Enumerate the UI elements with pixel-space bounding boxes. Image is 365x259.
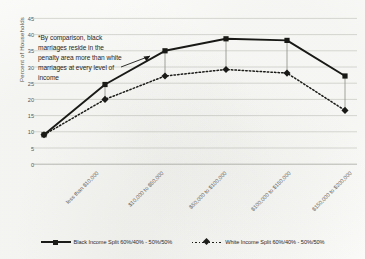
legend-key-solid-square-icon bbox=[41, 238, 71, 246]
chart-page: Percent of Households 45 40 35 30 25 20 … bbox=[0, 0, 365, 259]
chart-legend: Black Income Split 60%/40% - 50%/50% Whi… bbox=[0, 238, 365, 246]
chart-annotation: *By comparison, black marriages reside i… bbox=[38, 33, 124, 83]
legend-label-black: Black Income Split 60%/40% - 50%/50% bbox=[74, 239, 173, 245]
legend-item-white[interactable]: White Income Split 60%/40% - 50%/50% bbox=[192, 238, 324, 246]
legend-item-black[interactable]: Black Income Split 60%/40% - 50%/50% bbox=[41, 238, 173, 246]
legend-key-dotted-diamond-icon bbox=[192, 238, 222, 246]
legend-label-white: White Income Split 60%/40% - 50%/50% bbox=[225, 239, 324, 245]
